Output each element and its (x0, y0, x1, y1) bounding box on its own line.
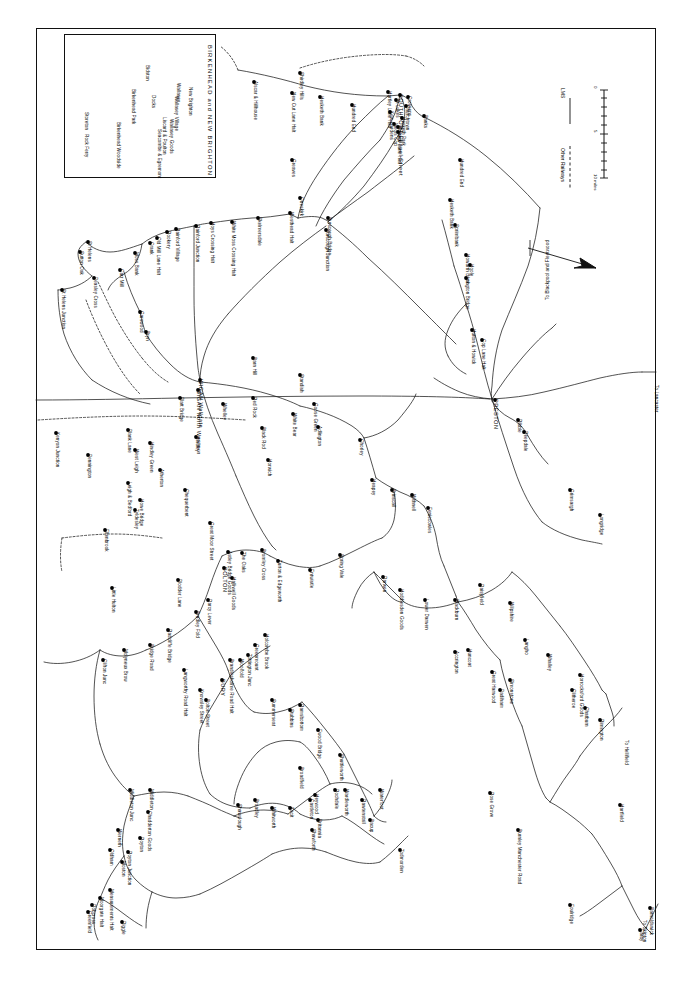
station-label: Moss Bank (133, 252, 138, 276)
station-label: Hoys Crossing Halt (209, 222, 214, 263)
station-label: Chatburn (583, 707, 588, 727)
station-label: Chadderton Goods (146, 811, 151, 851)
station-label: Rawtenstall (360, 799, 365, 824)
station-label: Heapey (370, 479, 375, 495)
station-label: Entwistle (308, 569, 313, 588)
station-label: Todmorden (398, 849, 403, 873)
station-label: Broadfield (298, 767, 303, 789)
station-label: Garswood (138, 311, 143, 333)
station-label: Howe Bridge (138, 499, 143, 526)
station-label: Greaves (290, 159, 295, 177)
station-label: Rookery (165, 231, 170, 249)
station-label: Horwich (266, 459, 271, 476)
station-label: Standish (298, 374, 303, 393)
station-label: West Leigh (133, 449, 138, 473)
station-label: Barn Hill (251, 357, 256, 375)
station-label: Black Rod (260, 427, 265, 449)
station-label: Hundred End (458, 159, 463, 187)
station-label: Tyldesley (133, 509, 138, 529)
station-label: Ribble (516, 419, 521, 433)
station-label: Halliwell Goods (230, 577, 235, 610)
rochdale-oldham (94, 650, 408, 940)
station-label: Castleton (308, 799, 313, 819)
station-label: Daisyfield (478, 584, 483, 605)
station-label: Wallasey Goods (168, 119, 173, 154)
station-label: Stubbins (288, 709, 293, 728)
station-label: Rochdale (333, 789, 338, 809)
station-label: Hoddlesden Goods (398, 589, 403, 630)
station-label: BURY (219, 679, 225, 696)
station-label: Simonstone (508, 679, 513, 704)
station-label: Storeton (83, 112, 88, 130)
station-label: Little Hulton (110, 587, 115, 613)
station-label: Rimington (598, 719, 603, 741)
map-legend (500, 60, 660, 210)
station-label: St Helens (86, 241, 91, 262)
station-label: Hindley Green (148, 442, 153, 473)
station-label: Burts Lane Halt (396, 131, 401, 164)
station-label: Wilpshire (508, 602, 513, 622)
station-label: Rose Grove (488, 792, 493, 818)
station-label: The Oaks (240, 552, 245, 573)
station-label: Shawforth (310, 829, 315, 851)
station-label: Banks (422, 115, 427, 128)
station-label: Cop Lane Halt (480, 339, 485, 370)
station-label: Hartley Lane Halt (386, 91, 391, 128)
station-label: Darcy Lever (206, 599, 211, 625)
station-label: Sutton Oak (78, 251, 83, 275)
station-label: Tottington Junc (246, 654, 251, 686)
station-label: Whitworth (270, 807, 275, 828)
station-label: Atherton (158, 469, 163, 487)
station-label: Great Harwood (490, 671, 495, 703)
station-label: Birkenhead Park (130, 89, 135, 124)
station-label: Bolton Street (204, 699, 209, 727)
station-label: Hutton & Howick (470, 329, 475, 364)
station-label: Wardleworth (343, 789, 348, 816)
station-label: Turton & Edgeworth (276, 560, 281, 602)
station-label: Hartfield (618, 804, 623, 822)
station-label: Shirdley Hills (298, 72, 303, 100)
station-label: Goose Green (312, 403, 317, 432)
station-label: Carr Mill (118, 269, 123, 287)
station-label: Clitheroe (570, 689, 575, 708)
station-label: Pennington (86, 454, 91, 478)
station-label: Feniscowles (426, 507, 431, 533)
station-label: Radcliffe Bridge (166, 629, 171, 663)
station-label: Facit (288, 807, 293, 817)
station-label: Burnley Manchester Road (516, 829, 521, 884)
station-label: Earby (638, 929, 643, 942)
station-label: Platt Bridge (178, 397, 183, 422)
station-label: Hesketh Bank (448, 199, 453, 229)
station-label: St Lukes (394, 99, 399, 118)
station-label: Foulridge (568, 904, 573, 924)
station-label: Middleton (148, 789, 153, 810)
station-label: Howarth Bank (464, 254, 469, 284)
station-label: Moorgate Halt (98, 897, 103, 927)
station-label: Greenfield (86, 911, 91, 933)
station-label: Royton (138, 837, 143, 852)
station-label: PRESTON (492, 399, 498, 429)
edge-note-blackpool: To Blackpool and Fleetwood (546, 240, 551, 300)
inset-title: BIRKENHEAD and NEW BRIGHTON (207, 45, 213, 176)
station-label: Bidston (144, 65, 149, 81)
station-label: White Moss Crossing Halt (230, 221, 235, 276)
legend-other-label: Other Railways (560, 148, 566, 182)
station-label: Bacup (368, 819, 373, 833)
station-label: Leigh & Bedford (126, 482, 131, 516)
station-label: New Cut Lane Halt (290, 92, 295, 132)
station-label: Rainford Village (174, 228, 179, 262)
station-label: Huncoat (466, 649, 471, 667)
station-label: Plank Lane (126, 429, 131, 453)
edge-note-hellifield: To Hellifield (623, 740, 628, 765)
station-label: BOLTON (221, 567, 227, 592)
north-arrow (528, 240, 596, 268)
station-label: Crank (148, 242, 153, 255)
station-label: Bromley Cross (260, 549, 265, 580)
station-label: Plodder Lane (176, 579, 181, 608)
station-label: Ellenbrook (103, 529, 108, 552)
station-label: Werneth (116, 829, 121, 847)
station-label: Molyneux Brow (122, 649, 127, 682)
station-label: Whalley (546, 654, 551, 671)
station-label: Red Rock (251, 397, 256, 418)
station-label: Ramsbottom (298, 704, 303, 731)
